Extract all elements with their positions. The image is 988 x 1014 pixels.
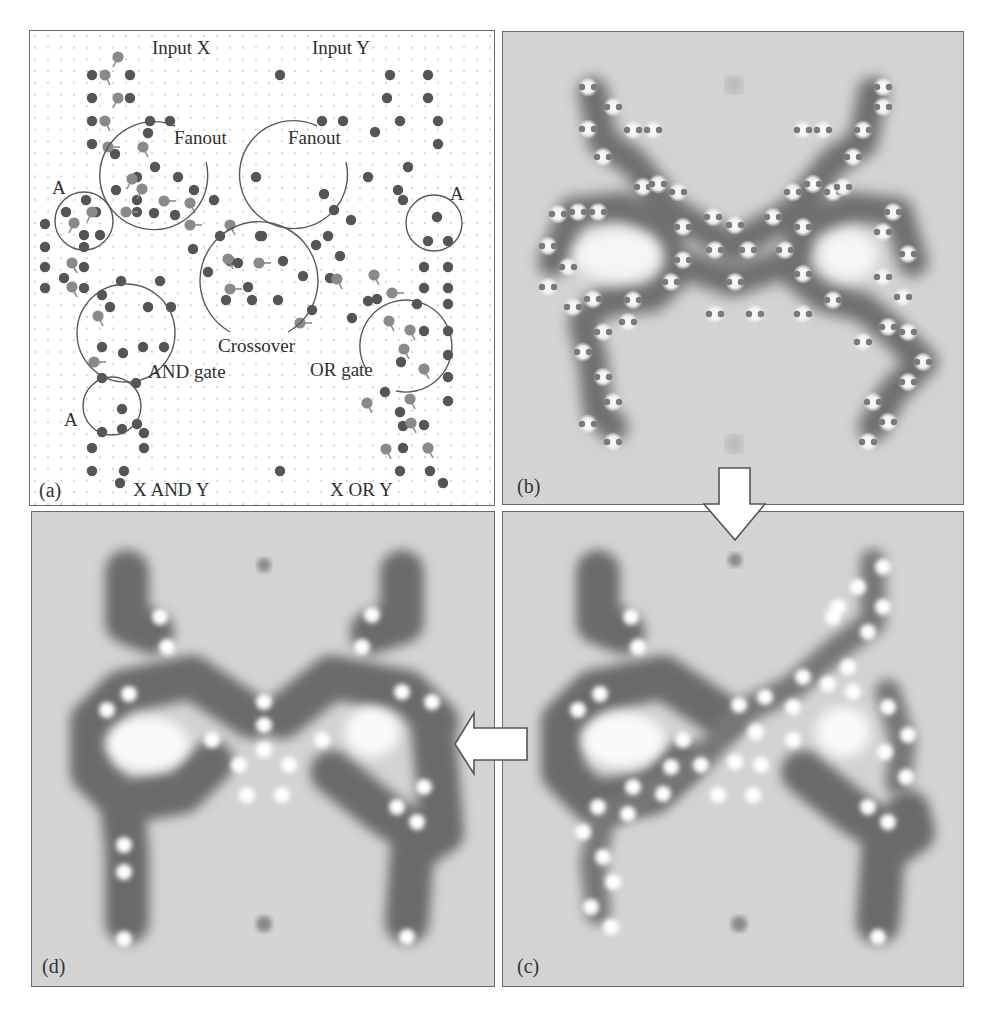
panel-a-diagram [30,31,495,506]
panel-letter-c: (c) [517,955,539,978]
panel-letter-d: (d) [42,955,65,978]
label-input-x: Input X [152,37,211,59]
panel-d-stm-image [32,512,495,987]
panel-a: Input X Input Y Fanout Fanout A A Crosso… [29,30,495,506]
label-a-bottom-left: A [64,409,78,431]
label-a-top-right: A [450,183,464,205]
panel-letter-b: (b) [517,475,540,498]
label-crossover: Crossover [218,335,295,357]
panel-c-stm-image [503,512,964,987]
label-a-top-left: A [52,177,66,199]
label-fanout-left: Fanout [174,127,227,149]
label-and-gate: AND gate [148,361,226,383]
label-fanout-right: Fanout [288,127,341,149]
panel-letter-a: (a) [39,479,61,502]
panel-d: (d) [31,511,495,987]
arrow-down-icon [700,466,770,544]
label-input-y: Input Y [312,37,370,59]
panel-c: (c) [502,511,964,987]
panel-b-stm-image [503,32,964,505]
arrow-left-icon [452,710,532,778]
label-or-gate: OR gate [310,359,373,381]
label-output-or: X OR Y [330,479,393,501]
panel-b: (b) [502,31,964,505]
label-output-and: X AND Y [133,479,209,501]
